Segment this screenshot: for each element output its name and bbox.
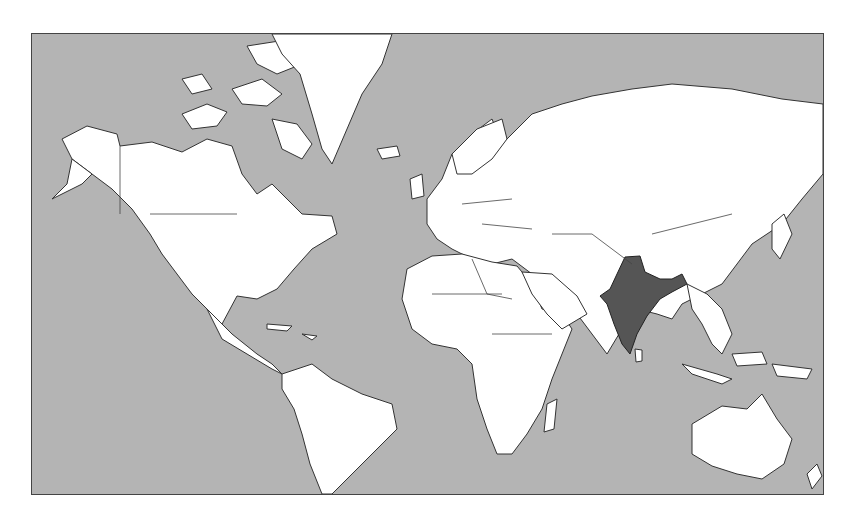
south-america [282, 364, 397, 494]
australia [692, 394, 792, 479]
caribbean [267, 324, 317, 340]
sri-lanka [635, 349, 642, 362]
madagascar [544, 399, 557, 432]
new-zealand [807, 464, 822, 489]
world-map-frame [31, 33, 824, 495]
southeast-asia [687, 284, 732, 354]
indonesia [682, 352, 812, 384]
uk [410, 174, 424, 199]
iceland [377, 146, 400, 159]
world-map [32, 34, 823, 494]
